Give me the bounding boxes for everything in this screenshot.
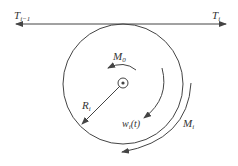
moment-center-arrow <box>108 64 136 70</box>
angular-velocity-label: wi(t) <box>122 118 141 131</box>
tension-left-label: Ti−1 <box>14 9 30 23</box>
drum-force-diagram: Ti−1 Ti M0 Ri wi(t) Mi <box>0 0 238 166</box>
hub-dot <box>121 81 124 84</box>
radius-label: Ri <box>81 99 91 113</box>
moment-outer-label: Mi <box>182 117 194 131</box>
angular-velocity-arrow <box>144 68 164 118</box>
moment-center-label: M0 <box>112 50 126 64</box>
tension-right-label: Ti <box>212 9 220 23</box>
